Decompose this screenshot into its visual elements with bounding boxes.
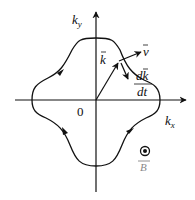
ky-label: ky xyxy=(72,12,82,29)
v-label: v xyxy=(143,44,149,59)
orbit-arrow-icon xyxy=(57,69,64,76)
k-vector xyxy=(96,63,118,100)
kx-label: kx xyxy=(165,113,175,130)
fermi-surface-diagram: ky kx 0 k v dk dt B xyxy=(0,0,195,200)
b-label: B xyxy=(140,161,147,173)
orbit-arrow-icon xyxy=(62,127,68,135)
dkdt-denominator: dt xyxy=(137,84,148,99)
k-label: k xyxy=(100,52,106,67)
dkdt-numerator: dk xyxy=(136,68,149,83)
origin-label: 0 xyxy=(77,104,84,119)
